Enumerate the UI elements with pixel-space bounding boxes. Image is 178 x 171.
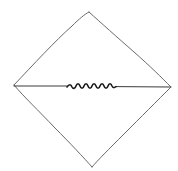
diamond-upper-right-edge [89,12,171,87]
diamond-lower-right-edge [92,87,171,167]
squiggle-spring [67,84,116,89]
diamond-upper-left-edge [14,12,89,85]
diamond-diagram [0,0,178,171]
diamond-lower-left-edge [14,85,92,167]
